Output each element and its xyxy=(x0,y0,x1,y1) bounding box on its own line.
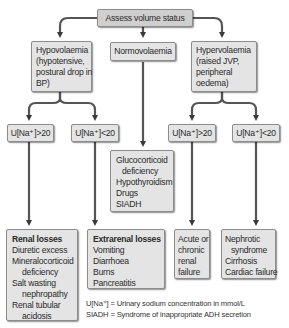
normo-cause: Drugs xyxy=(116,188,168,199)
hyper-gt20-label: U[Na⁺]>20 xyxy=(170,128,214,139)
node-oedematous-states: Nephrotic syndrome Cirrhosis Cardiac fai… xyxy=(221,229,276,279)
normo-cause: deficiency xyxy=(116,166,168,177)
renal-loss-item: Diuretic excess xyxy=(12,245,72,256)
renal-loss-item: nephropathy xyxy=(12,289,72,300)
node-hyper-urine-na-gt20: U[Na⁺]>20 xyxy=(168,124,216,142)
renal-losses-title: Renal losses xyxy=(12,234,72,245)
renal-loss-item: acidosis xyxy=(12,311,72,322)
node-hyper-urine-na-lt20: U[Na⁺]<20 xyxy=(232,124,280,142)
hypo-gt20-label: U[Na⁺]>20 xyxy=(9,128,52,139)
extrarenal-losses-title: Extrarenal losses xyxy=(93,234,159,245)
renal-failure-line: chronic xyxy=(178,245,206,256)
renal-loss-item: Mineralocorticoid xyxy=(12,256,72,267)
node-extrarenal-losses: Extrarenal losses Vomiting Diarrhoea Bur… xyxy=(87,229,165,289)
normo-cause: Glucocorticoid xyxy=(116,155,168,166)
renal-failure-line: renal xyxy=(178,256,206,267)
renal-loss-item: Salt wasting xyxy=(12,278,72,289)
normo-cause: Hypothyroidism xyxy=(116,177,168,188)
hyper-line-2: (raised JVP, xyxy=(196,56,252,67)
extrarenal-loss-item: Diarrhoea xyxy=(93,256,159,267)
renal-loss-item: Renal tubular xyxy=(12,300,72,311)
hypo-line-4: BP) xyxy=(36,78,87,89)
node-hypo-urine-na-gt20: U[Na⁺]>20 xyxy=(7,124,54,142)
node-hypervolaemia: Hypervolaemia (raised JVP, peripheral oe… xyxy=(191,41,257,92)
node-hypovolaemia: Hypovolaemia (hypotensive, postural drop… xyxy=(31,41,92,92)
extrarenal-loss-item: Burns xyxy=(93,267,159,278)
node-renal-losses: Renal losses Diuretic excess Mineralocor… xyxy=(6,229,78,321)
oedema-cause: Cardiac failure xyxy=(225,267,272,278)
hypo-line-2: (hypotensive, xyxy=(36,56,87,67)
hypo-line-3: postural drop in xyxy=(36,67,87,78)
legend-siadh: SIADH = Syndrome of inappropriate ADH se… xyxy=(86,309,251,320)
legend: U[Na⁺] = Urinary sodium concentration in… xyxy=(86,298,251,320)
node-renal-failure: Acute or chronic renal failure xyxy=(174,229,210,279)
hypo-line-1: Hypovolaemia xyxy=(36,45,87,56)
oedema-cause: syndrome xyxy=(225,245,272,256)
renal-failure-line: failure xyxy=(178,267,206,278)
oedema-cause: Cirrhosis xyxy=(225,256,272,267)
hyper-line-4: oedema) xyxy=(196,78,252,89)
oedema-cause: Nephrotic xyxy=(225,234,272,245)
hyper-line-1: Hypervolaemia xyxy=(196,45,252,56)
root-node-assess-volume: Assess volume status xyxy=(97,9,193,27)
hyper-line-3: peripheral xyxy=(196,67,252,78)
hyper-lt20-label: U[Na⁺]<20 xyxy=(234,128,278,139)
hypo-lt20-label: U[Na⁺]<20 xyxy=(73,128,117,139)
node-hypo-urine-na-lt20: U[Na⁺]<20 xyxy=(71,124,119,142)
renal-failure-line: Acute or xyxy=(178,234,206,245)
extrarenal-loss-item: Vomiting xyxy=(93,245,159,256)
legend-urinary-sodium: U[Na⁺] = Urinary sodium concentration in… xyxy=(86,298,251,309)
extrarenal-loss-item: Pancreatitis xyxy=(93,278,159,289)
renal-loss-item: deficiency xyxy=(12,267,72,278)
root-label: Assess volume status xyxy=(100,13,190,24)
normo-label: Normovolaemia xyxy=(113,46,173,57)
normo-cause: SIADH xyxy=(116,199,168,210)
node-normovolaemia: Normovolaemia xyxy=(110,42,176,61)
node-normo-causes: Glucocorticoid deficiency Hypothyroidism… xyxy=(110,150,174,212)
